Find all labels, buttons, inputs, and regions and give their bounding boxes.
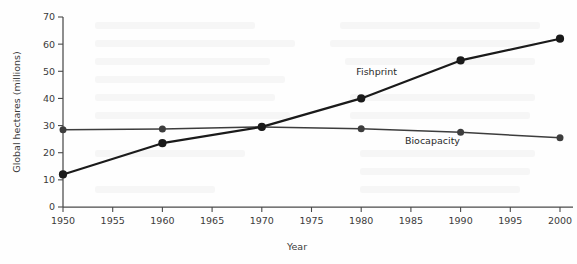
- x-tick-label: 1955: [101, 215, 125, 226]
- series-annotations: Fishprint Biocapacity: [356, 66, 460, 146]
- y-tick-label: 0: [49, 201, 55, 212]
- x-axis-title: Year: [286, 241, 307, 252]
- x-tick-label: 1975: [299, 215, 323, 226]
- x-tick-label: 1960: [150, 215, 174, 226]
- series-line-biocapacity: [63, 127, 560, 138]
- series-markers-biocapacity: [60, 123, 564, 141]
- x-tick-label: 1970: [250, 215, 274, 226]
- data-point-biocapacity: [60, 126, 67, 133]
- y-axis: 010203040506070 Global hectares (million…: [11, 11, 63, 212]
- x-tick-label: 1965: [200, 215, 224, 226]
- x-tick-label: 1985: [399, 215, 423, 226]
- x-tick-label: 1990: [449, 215, 473, 226]
- y-tick-label: 40: [43, 93, 55, 104]
- x-tick-label: 2000: [548, 215, 572, 226]
- data-point-fishprint: [357, 94, 365, 102]
- x-axis-ticks: [63, 207, 560, 212]
- data-point-fishprint: [457, 56, 465, 64]
- data-point-biocapacity: [358, 125, 365, 132]
- data-point-fishprint: [556, 35, 564, 43]
- data-point-biocapacity: [557, 134, 564, 141]
- line-chart: 010203040506070 Global hectares (million…: [0, 0, 577, 264]
- chart-figure: 010203040506070 Global hectares (million…: [0, 0, 577, 264]
- series-line-fishprint: [63, 39, 560, 175]
- y-tick-label: 50: [43, 66, 55, 77]
- data-point-fishprint: [59, 170, 67, 178]
- data-point-fishprint: [158, 139, 166, 147]
- y-tick-label: 70: [43, 11, 55, 22]
- y-axis-ticks: [58, 17, 63, 207]
- y-tick-label: 60: [43, 39, 55, 50]
- y-tick-label: 20: [43, 147, 55, 158]
- data-point-biocapacity: [159, 126, 166, 133]
- x-axis-tick-labels: 1950195519601965197019751980198519901995…: [51, 215, 572, 226]
- x-tick-label: 1950: [51, 215, 75, 226]
- data-point-fishprint: [258, 123, 266, 131]
- y-axis-title: Global hectares (millions): [11, 51, 22, 172]
- series-label-biocapacity: Biocapacity: [405, 135, 460, 146]
- y-tick-label: 30: [43, 120, 55, 131]
- x-axis: 1950195519601965197019751980198519901995…: [51, 207, 573, 252]
- y-axis-tick-labels: 010203040506070: [43, 11, 55, 212]
- series-label-fishprint: Fishprint: [356, 66, 397, 77]
- x-tick-label: 1980: [349, 215, 373, 226]
- series-layer: [59, 35, 564, 179]
- series-markers-fishprint: [59, 35, 564, 179]
- x-tick-label: 1995: [498, 215, 522, 226]
- y-tick-label: 10: [43, 174, 55, 185]
